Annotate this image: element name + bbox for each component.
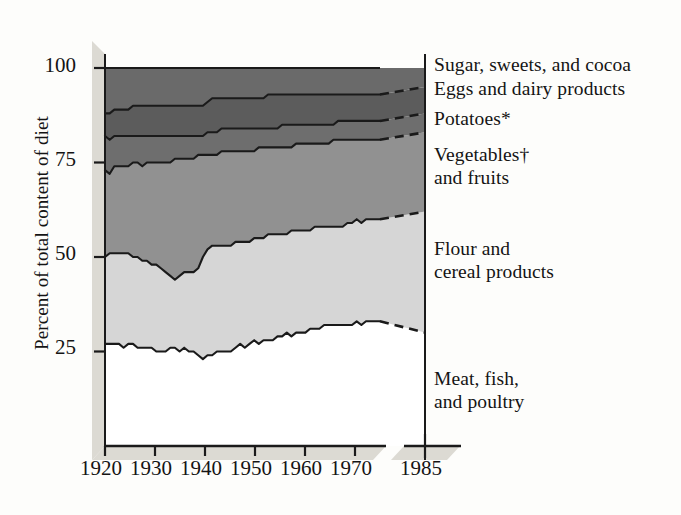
chart-plot: [0, 0, 681, 515]
chart-figure: Percent of total content of diet 100 75 …: [0, 0, 681, 515]
stacked-areas: [105, 68, 425, 446]
